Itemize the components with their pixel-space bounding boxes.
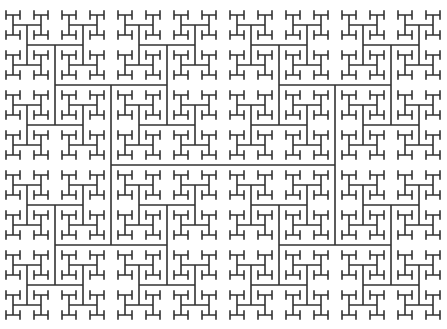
h-tree-path xyxy=(6,11,440,319)
h-tree-fractal-diagram xyxy=(0,0,447,329)
h-tree-lines xyxy=(6,11,440,319)
